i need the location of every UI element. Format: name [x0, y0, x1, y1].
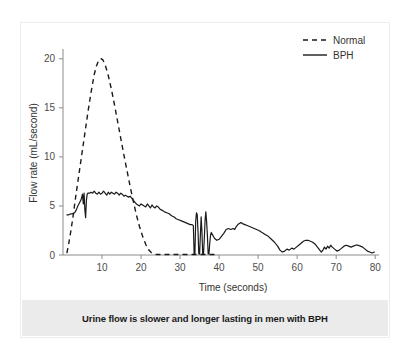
y-axis: 05101520	[44, 49, 63, 261]
x-tick-label: 40	[214, 262, 226, 273]
x-tick-label: 70	[331, 262, 343, 273]
x-tick-label: 20	[135, 262, 147, 273]
series-line-bph	[67, 191, 375, 254]
x-tick-group: 1020304050607080	[96, 255, 381, 273]
y-tick-label: 5	[49, 200, 55, 211]
x-tick-label: 80	[370, 262, 382, 273]
y-tick-label: 10	[44, 151, 56, 162]
legend-label-normal: Normal	[333, 35, 365, 46]
y-tick-label: 20	[44, 53, 56, 64]
figure-caption-text: Urine flow is slower and longer lasting …	[82, 313, 328, 324]
x-tick-label: 60	[292, 262, 304, 273]
figure-card: 05101520 1020304050607080 Time (seconds)…	[20, 22, 390, 338]
figure-caption-bar: Urine flow is slower and longer lasting …	[22, 300, 388, 336]
data-series-group	[67, 59, 375, 255]
x-tick-label: 30	[175, 262, 187, 273]
x-axis: 1020304050607080	[63, 255, 381, 273]
y-tick-group: 05101520	[44, 53, 63, 260]
y-axis-title: Flow rate (mL/second)	[28, 103, 39, 202]
legend-label-bph: BPH	[333, 50, 354, 61]
x-axis-title: Time (seconds)	[199, 282, 268, 293]
x-tick-label: 50	[253, 262, 265, 273]
chart-legend: Normal BPH	[303, 35, 365, 61]
y-tick-label: 0	[49, 250, 55, 261]
y-tick-label: 15	[44, 102, 56, 113]
x-tick-label: 10	[96, 262, 108, 273]
chart-plot-area: 05101520 1020304050607080 Time (seconds)…	[21, 23, 389, 301]
flow-rate-chart: 05101520 1020304050607080 Time (seconds)…	[21, 23, 389, 301]
series-line-normal	[67, 59, 217, 255]
